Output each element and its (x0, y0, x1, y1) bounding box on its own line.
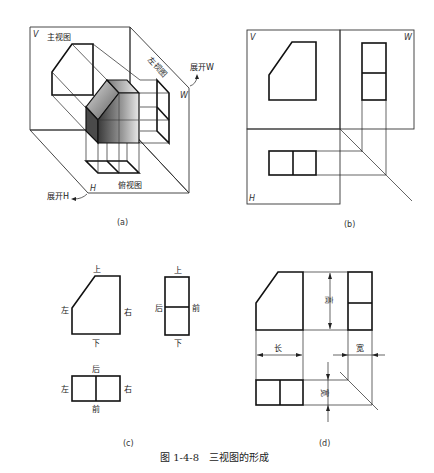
label-bottom: 下 (92, 339, 100, 348)
panel-c: 上 下 左 右 上 下 后 前 后 前 左 右 (c) (61, 265, 200, 448)
panel-c-caption: (c) (123, 439, 134, 448)
w-plane-label: W (404, 33, 413, 42)
panel-a-caption: (a) (117, 218, 128, 227)
label-back: 后 (92, 364, 100, 374)
label-left: 左 (61, 305, 69, 315)
label-back: 后 (155, 303, 163, 313)
w-plane (340, 30, 414, 129)
panel-d: 高 长 宽 宽 (d) (256, 272, 385, 448)
top-view-label: 俯视图 (118, 180, 142, 190)
width-label-vertical: 宽 (320, 389, 330, 397)
left-view-projection (157, 80, 169, 143)
three-view-figure: V 主视图 左视图 展开W W H 俯视图 展开H (a) V W (0, 0, 434, 473)
figure-caption: 图 1-4-8 三视图的形成 (160, 451, 269, 463)
front-view (269, 42, 316, 100)
v-plane (247, 30, 340, 129)
w-plane-label: W (180, 91, 189, 100)
label-front: 前 (92, 404, 100, 414)
label-right: 右 (124, 384, 132, 394)
panel-d-caption: (d) (319, 439, 330, 448)
front-view-projection (52, 44, 93, 95)
label-front: 前 (192, 303, 200, 313)
side-view (348, 272, 372, 330)
panel-a: V 主视图 左视图 展开W W H 俯视图 展开H (a) (30, 27, 214, 227)
label-top: 上 (174, 266, 182, 275)
left-view-label: 左视图 (146, 54, 170, 78)
unfold-w-label: 展开W (190, 63, 214, 72)
height-label: 高 (324, 296, 334, 304)
side-view (165, 277, 189, 335)
v-plane-label: V (250, 33, 256, 42)
h-plane-label: H (90, 184, 96, 193)
panel-b-caption: (b) (344, 220, 355, 229)
length-label: 长 (274, 343, 282, 353)
label-right: 右 (124, 307, 132, 317)
shaded-solid (86, 80, 139, 143)
front-view (72, 276, 120, 334)
width-label-horizontal: 宽 (356, 343, 364, 353)
v-plane-label: V (33, 30, 39, 39)
front-view (256, 272, 303, 330)
label-top: 上 (93, 265, 101, 274)
h-plane-label: H (249, 194, 255, 203)
panel-b: V W H (b) (247, 30, 414, 229)
unfold-h-label: 展开H (47, 192, 69, 201)
label-left: 左 (61, 384, 69, 394)
label-bottom: 下 (174, 339, 182, 348)
front-view-label: 主视图 (47, 32, 71, 42)
side-view (362, 43, 386, 100)
